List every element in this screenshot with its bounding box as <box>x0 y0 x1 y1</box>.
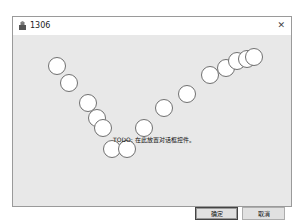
ok-button[interactable]: 确定 <box>195 207 238 220</box>
title-bar[interactable]: 1306 ✕ <box>13 17 291 35</box>
cancel-button[interactable]: 取消 <box>242 207 285 220</box>
circle <box>245 48 263 66</box>
circle <box>94 119 112 137</box>
circle <box>60 74 78 92</box>
app-icon <box>18 21 27 30</box>
circle <box>178 85 196 103</box>
todo-label: TODO: 在此放置对话框控件。 <box>113 136 195 144</box>
circle <box>155 99 173 117</box>
circle <box>48 57 66 75</box>
circle <box>135 119 153 137</box>
close-icon[interactable]: ✕ <box>277 20 285 31</box>
dialog-client-area: TODO: 在此放置对话框控件。 确定 取消 <box>13 35 291 206</box>
window-title: 1306 <box>30 20 50 31</box>
dialog-window: 1306 ✕ TODO: 在此放置对话框控件。 确定 取消 <box>12 16 292 207</box>
